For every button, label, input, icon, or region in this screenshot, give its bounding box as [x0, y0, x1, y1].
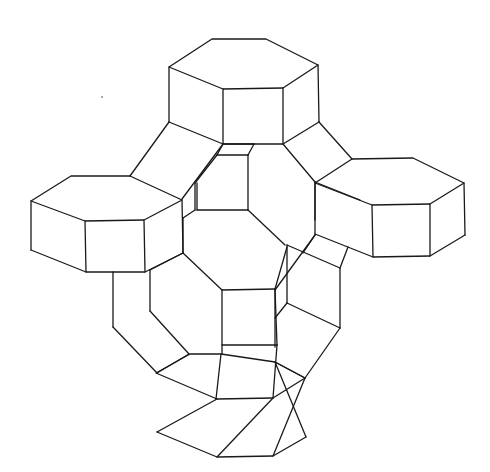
hexagonal-prisms [31, 39, 465, 457]
bottom-hexagonal-prism [156, 354, 306, 457]
framework-edge [340, 247, 348, 268]
framework-edge [183, 253, 222, 290]
prism-vertical-edge [318, 65, 319, 122]
framework-edge [287, 245, 340, 268]
framework-edge [150, 311, 189, 354]
framework-edge [275, 362, 305, 378]
framework-edge [319, 122, 352, 159]
prism-vertical-edge [372, 205, 373, 257]
prism-vertical-edge [273, 378, 305, 456]
specks [101, 96, 103, 98]
framework-edge [216, 354, 221, 399]
framework-edge [113, 327, 157, 373]
framework-edge [303, 235, 315, 253]
framework-edge [275, 303, 287, 318]
framework-edge [222, 289, 275, 290]
prism-vertical-edge [144, 220, 145, 272]
framework-edge [130, 122, 169, 176]
framework-edge [182, 144, 223, 199]
prism-vertical-edge [275, 362, 306, 437]
prism-top-face [31, 176, 182, 221]
prism-vertical-edge [464, 183, 465, 235]
left-hexagonal-prism [31, 176, 183, 272]
prism-vertical-edge [85, 221, 86, 272]
framework-edge [183, 210, 195, 218]
prism-bottom-edge [31, 250, 183, 272]
prism-bottom-edge [315, 234, 465, 257]
cage-framework-diagram [0, 0, 490, 472]
prism-vertical-edge [217, 398, 273, 457]
framework-edge [195, 155, 217, 183]
framework-edge [287, 303, 340, 328]
prism-top-face [169, 39, 318, 89]
framework-edge [283, 144, 315, 182]
ink-speck [101, 96, 103, 98]
prism-bottom-edge [157, 432, 306, 457]
connecting-edges [113, 122, 360, 399]
prism-top-face [315, 158, 464, 205]
framework-edge [217, 144, 223, 155]
framework-edge [157, 354, 189, 373]
framework-edge [248, 144, 254, 155]
framework-edge [305, 328, 340, 378]
framework-edge [273, 345, 277, 398]
prism-vertical-edge [157, 399, 217, 432]
right-hexagonal-prism [315, 158, 465, 257]
top-hexagonal-prism [169, 39, 319, 144]
framework-edge [150, 253, 183, 270]
framework-edge [315, 182, 360, 200]
framework-edge [248, 210, 285, 245]
prism-bottom-edge [169, 122, 319, 144]
